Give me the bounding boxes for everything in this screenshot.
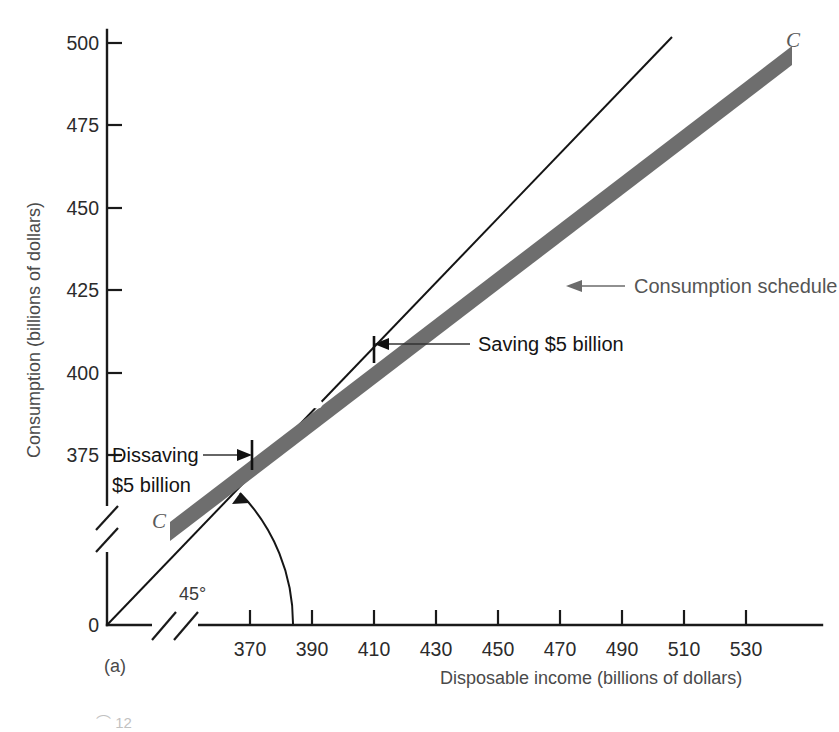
y-tick-label-450: 450 <box>66 197 99 219</box>
x-tick-label-450: 450 <box>482 638 515 660</box>
y-tick-label-475: 475 <box>66 114 99 136</box>
panel-label: (a) <box>104 656 126 676</box>
forty-five-degree-line <box>107 37 672 625</box>
consumption-schedule-label: Consumption schedule <box>634 275 837 297</box>
chart-canvas: 500 475 450 425 400 375 0 370 390 410 43… <box>0 0 839 732</box>
x-tick-label-390: 390 <box>296 638 329 660</box>
angle-arc <box>240 493 293 624</box>
x-tick-label-470: 470 <box>544 638 577 660</box>
page-edge-artifact-glyph: ⌒ 12 <box>96 714 216 732</box>
dissaving-label-line1: Dissaving <box>112 444 199 466</box>
curve-label-lower-c: C <box>152 509 167 533</box>
dissaving-label-line2: $5 billion <box>112 474 191 496</box>
dissaving-arrow-icon <box>237 449 252 461</box>
x-axis-title: Disposable income (billions of dollars) <box>440 668 742 688</box>
x-tick-label-410: 410 <box>358 638 391 660</box>
y-tick-label-500: 500 <box>66 32 99 54</box>
y-tick-label-400: 400 <box>66 362 99 384</box>
x-tick-label-370: 370 <box>234 638 267 660</box>
consumption-schedule-figure: 500 475 450 425 400 375 0 370 390 410 43… <box>0 0 839 732</box>
x-tick-label-530: 530 <box>730 638 763 660</box>
consumption-schedule-arrow-icon <box>566 280 582 292</box>
x-tick-marks <box>250 610 746 625</box>
y-tick-label-375: 375 <box>66 444 99 466</box>
y-axis-title: Consumption (billions of dollars) <box>24 202 44 458</box>
x-tick-label-490: 490 <box>606 638 639 660</box>
x-axis-break-icon <box>152 612 198 640</box>
x-tick-label-510: 510 <box>668 638 701 660</box>
y-axis-break-icon <box>96 506 118 552</box>
y-tick-marks <box>107 43 122 455</box>
break-even-point-marker <box>312 400 323 409</box>
x-tick-label-430: 430 <box>420 638 453 660</box>
page-edge-artifact: ⌒ 12 <box>96 714 216 732</box>
angle-label: 45° <box>179 584 206 604</box>
curve-label-upper-c: C <box>786 28 801 52</box>
saving-label: Saving $5 billion <box>478 333 624 355</box>
origin-label: 0 <box>88 614 99 636</box>
y-tick-label-425: 425 <box>66 279 99 301</box>
